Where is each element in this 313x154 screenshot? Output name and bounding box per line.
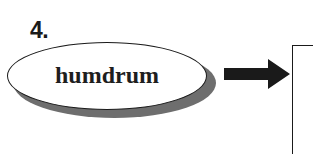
vocabulary-word: humdrum	[55, 62, 159, 89]
answer-box[interactable]	[292, 45, 313, 154]
item-number: 4.	[30, 19, 48, 42]
vocabulary-word-oval: humdrum	[7, 42, 207, 110]
right-arrow-icon	[224, 59, 290, 89]
